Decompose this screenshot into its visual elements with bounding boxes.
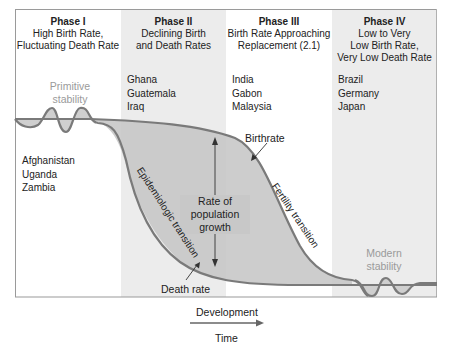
- phase-1-countries: Afghanistan Uganda Zambia: [22, 154, 75, 195]
- country: Brazil: [338, 73, 379, 87]
- x-axis-development-label: Development: [196, 306, 258, 318]
- phase-2-countries: Ghana Guatemala Iraq: [127, 73, 176, 114]
- country: Malaysia: [232, 100, 271, 114]
- phase-4-title: Phase IV: [332, 16, 437, 28]
- phase-3-title: Phase III: [226, 16, 332, 28]
- phase-4-header: Phase IV Low to Very Low Birth Rate, Ver…: [332, 16, 437, 64]
- country: Germany: [338, 87, 379, 101]
- growth-line1: Rate of: [180, 195, 250, 208]
- phase-2-desc: Declining Birth and Death Rates: [121, 28, 226, 52]
- phase-2-title: Phase II: [121, 16, 226, 28]
- birthrate-pointer-line: [254, 143, 267, 158]
- growth-line3: growth: [180, 221, 250, 234]
- country: Uganda: [22, 168, 75, 182]
- country: Zambia: [22, 181, 75, 195]
- phase-1-desc: High Birth Rate, Fluctuating Death Rate: [15, 28, 121, 52]
- phase-1-title: Phase I: [15, 16, 121, 28]
- phase-3-desc: Birth Rate Approaching Replacement (2.1): [226, 28, 332, 52]
- country: Afghanistan: [22, 154, 75, 168]
- rate-of-growth-label: Rate of population growth: [180, 195, 250, 234]
- modern-stability-line1: Modern: [344, 247, 424, 260]
- phase-3-header: Phase III Birth Rate Approaching Replace…: [226, 16, 332, 52]
- country: Iraq: [127, 100, 176, 114]
- phase-1-header: Phase I High Birth Rate, Fluctuating Dea…: [15, 16, 121, 52]
- country: Gabon: [232, 87, 271, 101]
- country: Guatemala: [127, 87, 176, 101]
- death-rate-label: Death rate: [161, 283, 210, 296]
- primitive-stability-line1: Primitive: [30, 80, 110, 93]
- modern-stability-line2: stability: [344, 260, 424, 273]
- time-arrow-icon: [256, 320, 264, 327]
- birthrate-label: Birthrate: [245, 132, 285, 145]
- phase-4-countries: Brazil Germany Japan: [338, 73, 379, 114]
- growth-line2: population: [180, 208, 250, 221]
- x-axis-time-label: Time: [215, 332, 238, 344]
- primitive-stability-line2: stability: [30, 93, 110, 106]
- phase-2-header: Phase II Declining Birth and Death Rates: [121, 16, 226, 52]
- phase-4-desc: Low to Very Low Birth Rate, Very Low Dea…: [332, 28, 437, 64]
- phase-3-countries: India Gabon Malaysia: [232, 73, 271, 114]
- modern-stability-label: Modern stability: [344, 247, 424, 272]
- primitive-stability-label: Primitive stability: [30, 80, 110, 105]
- country: India: [232, 73, 271, 87]
- country: Ghana: [127, 73, 176, 87]
- country: Japan: [338, 100, 379, 114]
